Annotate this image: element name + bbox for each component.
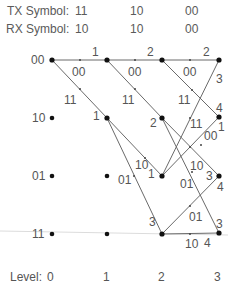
edge-metric-label: 2 bbox=[150, 116, 157, 130]
edge-metric-label: 4 bbox=[217, 180, 224, 194]
edge-metric-label: 3 bbox=[206, 169, 213, 183]
edge-output-label: 11 bbox=[122, 93, 135, 107]
edge-output-label: 11 bbox=[178, 93, 191, 107]
edge-metric-label: 3 bbox=[216, 72, 223, 86]
edge-metric-label: 3 bbox=[216, 217, 223, 231]
edge-output-label: 00 bbox=[72, 65, 86, 79]
edge-metric-label: 1 bbox=[148, 167, 155, 181]
node-l3-01 bbox=[216, 173, 221, 178]
node-l2-01 bbox=[159, 173, 164, 178]
node-l3-11 bbox=[216, 230, 221, 235]
state-label-00: 00 bbox=[31, 53, 45, 67]
node-l0-00 bbox=[49, 57, 54, 62]
edge-metric-label: 2 bbox=[147, 45, 154, 59]
state-label-01: 01 bbox=[32, 169, 46, 183]
edge-output-label: 10 bbox=[135, 158, 149, 172]
edge-output-label: 01 bbox=[189, 210, 203, 224]
edge-output-label: 00 bbox=[183, 65, 197, 79]
edge-metric-label: 1 bbox=[218, 120, 225, 134]
node-l1-10 bbox=[104, 115, 109, 120]
edge-output-label: 00 bbox=[128, 65, 142, 79]
node-l0-10 bbox=[50, 116, 55, 121]
edge-output-label: 10 bbox=[185, 237, 199, 251]
edge-metric-label: 4 bbox=[216, 101, 223, 115]
trellis-edges bbox=[52, 60, 219, 234]
edge-output-label: 11 bbox=[190, 117, 203, 131]
node-l0-01 bbox=[50, 174, 55, 179]
edge-metric-label: 4 bbox=[204, 236, 211, 250]
node-l2-11 bbox=[159, 231, 164, 236]
node-l1-00 bbox=[104, 57, 109, 62]
level-3: 3 bbox=[214, 270, 221, 284]
edge-output-label: 11 bbox=[64, 93, 77, 107]
node-l2-00 bbox=[159, 57, 164, 62]
edge-metric-label: 1 bbox=[93, 109, 100, 123]
trellis-diagram: 00 10 01 11 00 1 11 1 00 2 11 2 10 1 01 … bbox=[0, 0, 228, 293]
node-l0-11 bbox=[50, 232, 55, 237]
edge-metric-label: 2 bbox=[203, 45, 210, 59]
level-label: Level: bbox=[10, 270, 42, 284]
state-label-11: 11 bbox=[32, 227, 45, 241]
node-l1-11 bbox=[105, 232, 110, 237]
edge-output-label: 01 bbox=[180, 177, 194, 191]
node-l1-01 bbox=[105, 174, 110, 179]
edge-metric-label: 1 bbox=[92, 45, 99, 59]
edge-output-label: 10 bbox=[190, 159, 204, 173]
edge-output-label: 00 bbox=[204, 129, 218, 143]
level-1: 1 bbox=[103, 270, 110, 284]
edge-output-label: 01 bbox=[118, 173, 132, 187]
edge-midpoint-marks bbox=[79, 59, 202, 235]
state-label-10: 10 bbox=[32, 111, 46, 125]
level-0: 0 bbox=[47, 270, 54, 284]
level-2: 2 bbox=[158, 270, 165, 284]
node-l3-10 bbox=[216, 114, 221, 119]
node-l2-10 bbox=[159, 115, 164, 120]
node-l3-00 bbox=[216, 57, 221, 62]
edge-metric-label: 3 bbox=[149, 215, 156, 229]
